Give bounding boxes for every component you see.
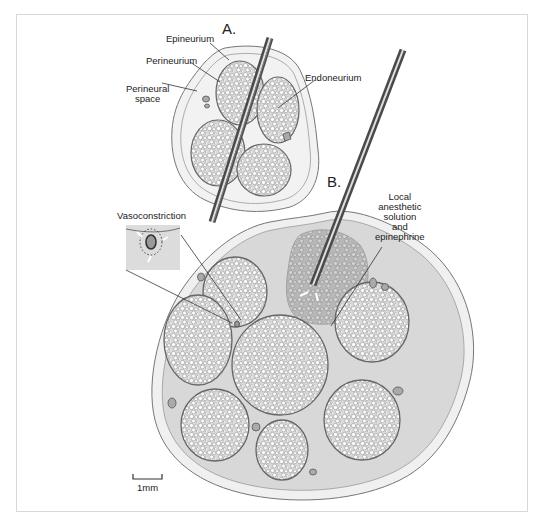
panel-a-label: A. xyxy=(222,24,236,34)
fascicle xyxy=(256,420,308,480)
fascicle xyxy=(257,77,299,143)
label-endoneurium: Endoneurium xyxy=(305,73,362,83)
label-local-anesthetic: Local anesthetic solution and epinephrin… xyxy=(375,192,425,242)
label-perineural-space: Perineural space xyxy=(126,84,169,104)
fascicle xyxy=(335,282,409,362)
blood-vessel xyxy=(393,387,403,395)
vasoconstriction-inset xyxy=(126,225,180,270)
fascicle xyxy=(164,295,232,385)
blood-vessel xyxy=(198,273,205,281)
blood-vessel xyxy=(382,284,389,291)
fascicle xyxy=(324,380,400,460)
label-epineurium: Epineurium xyxy=(166,34,214,44)
blood-vessel xyxy=(252,423,260,431)
panel-b-label: B. xyxy=(327,177,341,187)
fascicle xyxy=(237,144,291,196)
fascicle xyxy=(232,315,328,415)
blood-vessel xyxy=(168,398,176,408)
scale-bar-label: 1mm xyxy=(137,483,158,493)
scale-bar-line xyxy=(133,474,162,479)
blood-vessel xyxy=(203,96,210,102)
blood-vessel xyxy=(205,104,210,108)
nerve-a xyxy=(172,46,319,211)
blood-vessel xyxy=(235,321,240,327)
label-vasoconstriction: Vasoconstriction xyxy=(117,211,186,221)
nerve-b xyxy=(152,211,474,500)
blood-vessel xyxy=(370,278,377,288)
blood-vessel xyxy=(310,469,317,475)
label-perineurium: Perineurium xyxy=(146,56,197,66)
nerve-diagram xyxy=(0,0,543,526)
blood-vessel xyxy=(283,132,291,141)
fascicle xyxy=(181,389,249,461)
